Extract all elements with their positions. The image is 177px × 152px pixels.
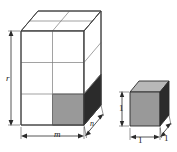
- label-unit-cube-width: 1: [138, 136, 143, 145]
- arrowhead-n-upper: [98, 114, 104, 120]
- figure-svg: [0, 0, 177, 152]
- label-unit-cube-depth: 1: [164, 134, 169, 143]
- unit-cube-front-face: [130, 92, 160, 126]
- label-depth-n: n: [90, 120, 94, 128]
- geometry-figure: r m n 1 1 1: [0, 0, 177, 152]
- unit-cube-group: [130, 81, 169, 126]
- big-box-group: [21, 11, 101, 125]
- shaded-cube-front-face: [53, 94, 85, 125]
- arrowhead-cube-w-right: [154, 135, 160, 139]
- extension-n-upper: [101, 105, 104, 116]
- label-width-m: m: [54, 130, 61, 139]
- arrowhead-cube-w-left: [130, 135, 136, 139]
- label-height-r: r: [6, 74, 10, 83]
- label-unit-cube-height: 1: [119, 104, 124, 113]
- arrowhead-m-left: [21, 134, 27, 139]
- arrowhead-m-right: [78, 134, 84, 139]
- extension-n-lower: [84, 125, 87, 138]
